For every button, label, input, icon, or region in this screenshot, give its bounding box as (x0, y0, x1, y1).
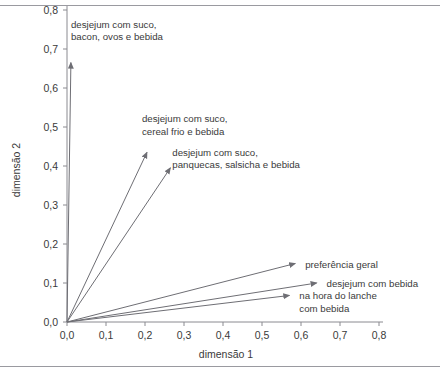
y-axis-title: dimensão 2 (10, 143, 22, 197)
x-axis-tick-label: 0,1 (99, 329, 114, 341)
vector-label-line: desjejum com suco, (71, 19, 157, 30)
vector-label: desjejum com suco,cereal frio e bebida (142, 113, 228, 137)
y-axis-tick-label: 0,1 (43, 277, 58, 289)
chart-annotations: desjejum com suco,bacon, ovos e bebidade… (71, 19, 419, 314)
vector-label-line: na hora do lanche (299, 290, 377, 301)
y-axis-tick-label: 0,5 (43, 121, 58, 133)
figure-container: 0,00,10,20,30,40,50,60,70,80,00,10,20,30… (0, 0, 440, 378)
x-axis-tick-label: 0,6 (294, 329, 309, 341)
vector-arrow (67, 168, 170, 322)
chart-vectors (67, 63, 317, 322)
y-axis-tick-label: 0,2 (43, 238, 58, 250)
vector-label: preferência geral (305, 259, 378, 270)
vector-label-line: panquecas, salsicha e bebida (172, 159, 300, 170)
x-axis-tick-label: 0,5 (255, 329, 270, 341)
vector-arrow (67, 264, 295, 323)
vector-arrow (67, 283, 317, 322)
y-axis-tick-label: 0,8 (43, 4, 58, 16)
vector-label: desjejum com suco,bacon, ovos e bebida (71, 19, 164, 43)
vector-label-line: cereal frio e bebida (142, 126, 225, 137)
vector-label-line: com bebida (299, 303, 350, 314)
vector-arrow (67, 152, 147, 322)
y-axis-tick-label: 0,7 (43, 43, 58, 55)
vector-arrow (67, 63, 71, 322)
vector-label-line: bacon, ovos e bebida (71, 31, 164, 42)
vector-label-line: desjejum com bebida (327, 278, 419, 289)
x-axis-tick-label: 0,2 (138, 329, 153, 341)
x-axis-tick-label: 0,3 (177, 329, 192, 341)
vector-biplot-chart: 0,00,10,20,30,40,50,60,70,80,00,10,20,30… (0, 0, 440, 378)
y-axis-tick-label: 0,3 (43, 199, 58, 211)
y-axis-tick-label: 0,6 (43, 82, 58, 94)
x-axis-tick-label: 0,0 (60, 329, 75, 341)
y-axis-tick-label: 0,4 (43, 160, 58, 172)
vector-label: desjejum com bebida (327, 278, 419, 289)
vector-label-line: desjejum com suco, (172, 147, 258, 158)
vector-label: na hora do lanchecom bebida (299, 290, 377, 314)
y-axis-tick-label: 0,0 (43, 316, 58, 328)
x-axis-tick-label: 0,8 (372, 329, 387, 341)
vector-label-line: desjejum com suco, (142, 113, 228, 124)
x-axis-tick-label: 0,7 (333, 329, 348, 341)
vector-label: desjejum com suco,panquecas, salsicha e … (172, 147, 300, 171)
vector-arrow (67, 295, 289, 322)
vector-label-line: preferência geral (305, 259, 378, 270)
x-axis-title: dimensão 1 (199, 348, 253, 360)
x-axis-tick-label: 0,4 (216, 329, 231, 341)
